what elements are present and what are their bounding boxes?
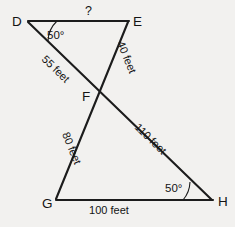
angle-arc-h bbox=[183, 182, 190, 200]
geometry-diagram: D E F G H ? 55 feet 40 feet 80 feet 110 … bbox=[0, 0, 235, 227]
segment-label-fg: 80 feet bbox=[60, 130, 84, 166]
angle-label-h: 50° bbox=[165, 182, 182, 194]
segment-label-df: 55 feet bbox=[40, 53, 73, 85]
vertex-label-h: H bbox=[218, 194, 228, 209]
angle-label-d: 50° bbox=[47, 29, 64, 41]
segment-label-ef: 40 feet bbox=[115, 39, 139, 75]
vertex-label-f: F bbox=[82, 89, 90, 104]
segment-label-gh: 100 feet bbox=[89, 204, 129, 216]
segment-label-fh: 110 feet bbox=[133, 121, 169, 157]
segment-label-de-unknown: ? bbox=[85, 4, 92, 18]
vertex-label-d: D bbox=[12, 14, 22, 29]
diagram-canvas: D E F G H ? 55 feet 40 feet 80 feet 110 … bbox=[0, 0, 235, 227]
vertex-label-g: G bbox=[42, 196, 53, 211]
vertex-label-e: E bbox=[133, 14, 142, 29]
